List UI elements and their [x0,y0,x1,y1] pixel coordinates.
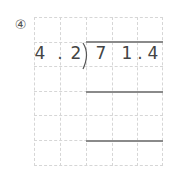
problem-number: ④ [13,17,28,32]
grid-line [34,165,163,166]
grid-line [34,115,163,116]
dividend-digit: 7 [88,41,114,66]
dividend-digit: 4 [140,41,166,66]
grid-line [34,66,163,67]
grid-line [34,17,163,18]
subtraction-line [86,91,163,93]
subtraction-line [86,140,163,142]
